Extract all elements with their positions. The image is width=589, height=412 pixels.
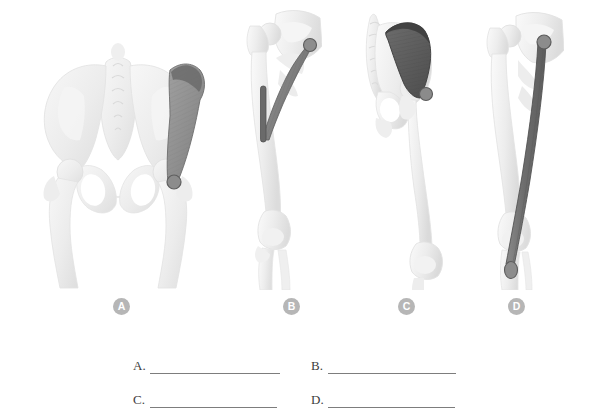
insertion-marker-a <box>167 175 181 189</box>
answer-label-a: A. <box>133 358 150 374</box>
answer-label-b: B. <box>311 358 328 374</box>
figure-badge-a: A <box>113 298 130 315</box>
answer-line-d[interactable] <box>328 392 455 408</box>
answer-item-c: C. <box>133 388 277 408</box>
panel-c-illustration <box>364 0 450 290</box>
figure-panel-c <box>364 0 450 290</box>
femur-bone-c <box>399 77 443 290</box>
highlighted-muscle-a <box>167 64 205 189</box>
panel-d-illustration <box>474 0 564 290</box>
insertion-marker-c <box>420 88 433 101</box>
origin-marker-b <box>304 39 317 52</box>
panel-a-illustration <box>20 0 230 290</box>
answer-blanks-section: A. B. C. D. <box>0 340 589 412</box>
answer-item-d: D. <box>311 388 455 408</box>
figure-badge-c: C <box>398 298 415 315</box>
answer-item-a: A. <box>133 354 280 374</box>
figure-panel-d <box>474 0 564 290</box>
answer-item-b: B. <box>311 354 456 374</box>
pelvis-fragment-bone-b <box>274 11 322 97</box>
figure-panel-a <box>20 0 230 290</box>
figure-badge-d: D <box>508 298 525 315</box>
insertion-band-b <box>261 86 267 142</box>
answer-label-c: C. <box>133 392 150 408</box>
figure-badge-b: B <box>283 298 300 315</box>
left-femur-bone <box>43 159 83 288</box>
figure-panel-row: A B C D <box>0 0 589 290</box>
answer-line-c[interactable] <box>150 392 277 408</box>
sacrum-bone <box>101 43 136 160</box>
origin-marker-d <box>537 35 551 49</box>
answer-line-a[interactable] <box>150 358 280 374</box>
worksheet-page: A B C D A. B. C. D. <box>0 0 589 412</box>
left-ilium-bone <box>44 65 106 170</box>
answer-label-d: D. <box>311 392 328 408</box>
answer-line-b[interactable] <box>328 358 456 374</box>
pubis-and-obturator-foramina <box>77 166 160 213</box>
panel-b-illustration <box>236 0 322 290</box>
insertion-marker-d <box>505 262 518 279</box>
figure-panel-b <box>236 0 322 290</box>
